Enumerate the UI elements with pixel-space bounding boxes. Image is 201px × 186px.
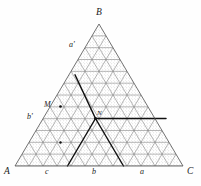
label-base-a: a	[140, 168, 144, 176]
triangle-diagram	[0, 0, 201, 186]
label-point-m: M	[44, 101, 51, 109]
label-base-c: c	[45, 168, 49, 176]
label-vertex-top: B	[96, 8, 102, 18]
label-vertex-left: A	[4, 167, 10, 177]
label-base-b: b	[92, 168, 96, 176]
label-vertex-right: C	[187, 167, 193, 177]
label-point-n: N	[97, 110, 102, 117]
label-a-prime: a'	[69, 41, 75, 49]
label-b-prime: b'	[27, 113, 33, 121]
figure-canvas: B A C c b a a' b' M N	[0, 0, 201, 186]
